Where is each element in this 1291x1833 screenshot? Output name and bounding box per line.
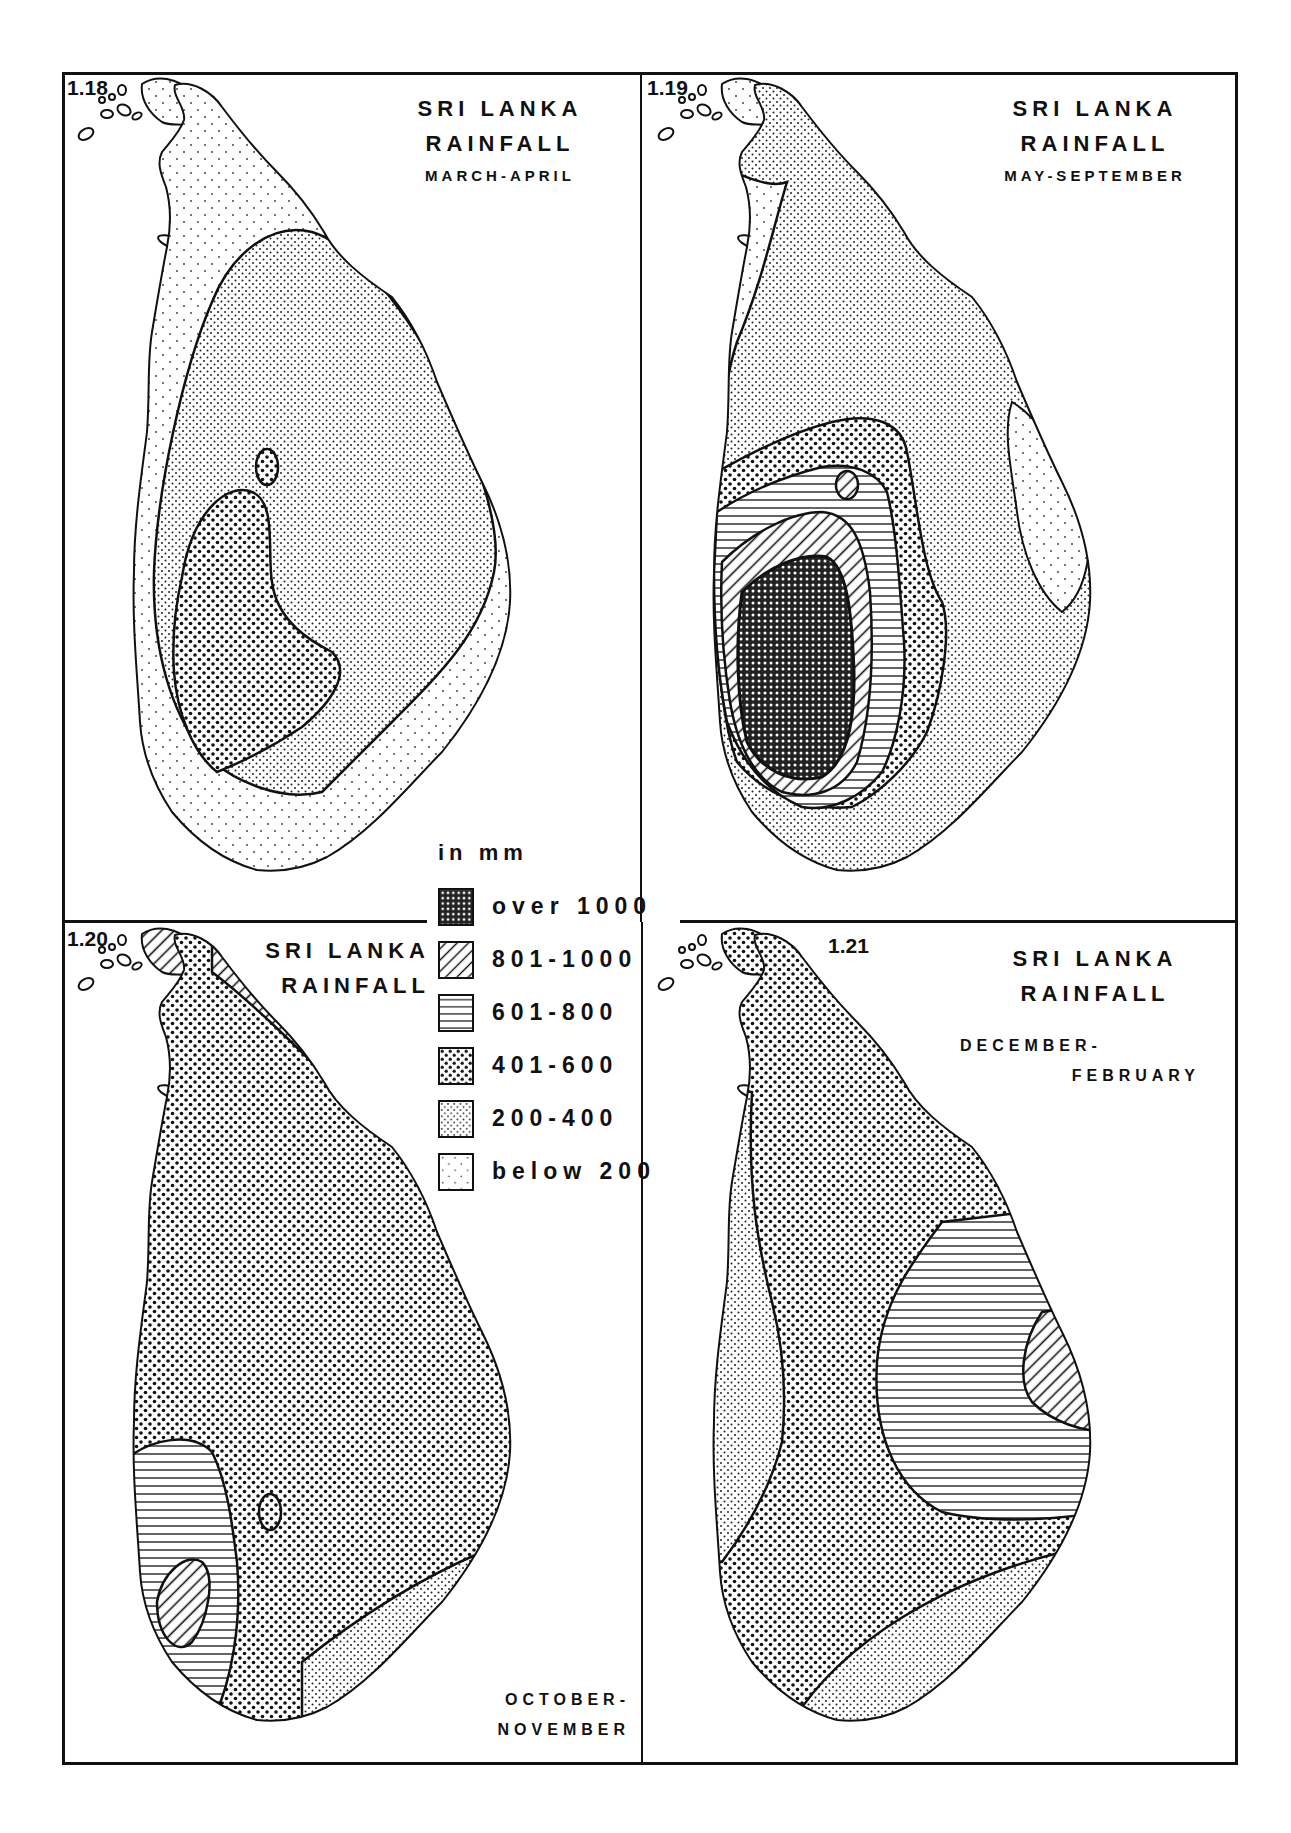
figure-number-1-21: 1.21 (828, 934, 869, 958)
legend-label: 801-1000 (492, 946, 637, 973)
season-line1: OCTOBER- (430, 1692, 630, 1708)
coarse-dots-swatch-icon (438, 1047, 474, 1085)
legend-label: 401-600 (492, 1052, 618, 1079)
title-country: SRI LANKA (240, 940, 430, 962)
crosshatch-swatch-icon (438, 888, 474, 926)
legend-item-401-600: 401-600 (433, 1039, 683, 1092)
season-line1: DECEMBER- (960, 1038, 1200, 1054)
panel-title-1-21: SRI LANKA RAINFALL (970, 948, 1220, 1018)
figure-number-1-19: 1.19 (647, 76, 688, 100)
season-1-21: DECEMBER- FEBRUARY (960, 1038, 1200, 1084)
legend-item-below-200: below 200 (433, 1145, 683, 1198)
title-topic: RAINFALL (240, 975, 430, 997)
legend-item-200-400: 200-400 (433, 1092, 683, 1145)
season-line2: FEBRUARY (960, 1068, 1200, 1084)
season-1-20: OCTOBER- NOVEMBER (430, 1692, 630, 1738)
legend-item-over-1000: over 1000 (433, 880, 683, 933)
title-topic: RAINFALL (400, 133, 600, 155)
horizontal-lines-swatch-icon (438, 994, 474, 1032)
legend-label: 601-800 (492, 999, 618, 1026)
title-season: MARCH-APRIL (400, 168, 600, 183)
title-country: SRI LANKA (970, 948, 1220, 970)
legend-label: below 200 (492, 1158, 656, 1185)
title-topic: RAINFALL (970, 983, 1220, 1005)
title-topic: RAINFALL (970, 133, 1220, 155)
legend: in mm over 1000 801-1000 601-800 401-600… (433, 840, 683, 1198)
divider-horizontal-left (62, 920, 427, 923)
title-country: SRI LANKA (970, 98, 1220, 120)
panel-title-1-18: SRI LANKA RAINFALL MARCH-APRIL (400, 98, 600, 183)
figure-number-1-20: 1.20 (67, 927, 108, 951)
legend-label: 200-400 (492, 1105, 618, 1132)
sparse-dots-swatch-icon (438, 1153, 474, 1191)
figure-number-1-18: 1.18 (67, 76, 108, 100)
legend-unit: in mm (438, 840, 683, 866)
legend-label: over 1000 (492, 893, 652, 920)
divider-horizontal-right (680, 920, 1238, 923)
legend-item-601-800: 601-800 (433, 986, 683, 1039)
panel-title-1-19: SRI LANKA RAINFALL MAY-SEPTEMBER (970, 98, 1220, 183)
panel-title-1-20: SRI LANKA RAINFALL (240, 940, 430, 1010)
title-country: SRI LANKA (400, 98, 600, 120)
legend-item-801-1000: 801-1000 (433, 933, 683, 986)
season-line2: NOVEMBER (430, 1722, 630, 1738)
fine-dots-swatch-icon (438, 1100, 474, 1138)
title-season: MAY-SEPTEMBER (970, 168, 1220, 183)
diagonal-hatch-swatch-icon (438, 941, 474, 979)
divider-vertical-top (640, 72, 642, 922)
